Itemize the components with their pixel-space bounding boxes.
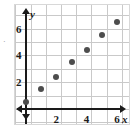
y-axis-arrow-down-icon: [22, 114, 30, 120]
data-point[interactable]: [38, 86, 44, 92]
gridline-horizontal: [15, 96, 129, 97]
gridline-vertical: [31, 5, 32, 124]
x-tick-label: 2: [53, 114, 59, 125]
y-tick-label: 6: [16, 24, 22, 35]
gridline-vertical: [61, 5, 62, 124]
data-point[interactable]: [84, 47, 90, 53]
gridline-vertical: [91, 5, 92, 124]
data-point[interactable]: [114, 19, 120, 25]
data-point[interactable]: [23, 99, 29, 105]
gridline-horizontal: [15, 42, 129, 43]
gridline-horizontal: [15, 69, 129, 70]
gridline-vertical: [46, 5, 47, 124]
data-point[interactable]: [99, 32, 105, 38]
x-axis-arrow-right-icon: [120, 105, 126, 113]
plot-area: 246246yx: [15, 5, 129, 124]
chart-screenshot: · 246246yx: [0, 0, 133, 129]
x-axis: [17, 108, 121, 110]
left-edge-artifact-mark: ·: [3, 38, 6, 46]
y-axis-arrow-up-icon: [22, 8, 30, 14]
y-axis-label: y: [30, 9, 35, 20]
x-tick-label: 6: [114, 114, 120, 125]
y-tick-label: 2: [16, 77, 22, 88]
x-axis-arrow-left-icon: [16, 105, 22, 113]
x-axis-label: x: [122, 114, 128, 125]
y-axis: [25, 13, 27, 124]
data-point[interactable]: [53, 74, 59, 80]
x-tick-label: 4: [84, 114, 90, 125]
gridline-vertical: [76, 5, 77, 124]
gridline-horizontal: [15, 122, 129, 123]
gridline-vertical: [107, 5, 108, 124]
gridline-horizontal: [15, 82, 129, 83]
data-point[interactable]: [69, 59, 75, 65]
scatter-plot-card: 246246yx: [14, 4, 130, 125]
y-tick-label: 4: [16, 50, 22, 61]
gridline-horizontal: [15, 29, 129, 30]
gridline-horizontal: [15, 55, 129, 56]
